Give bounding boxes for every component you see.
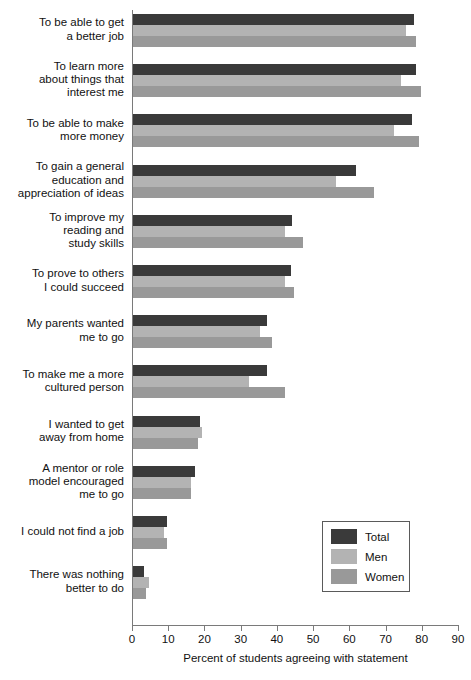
- bar-total: [133, 265, 291, 276]
- category-label: To be able to geta better job: [0, 16, 124, 42]
- bar-total: [133, 64, 416, 75]
- legend-label-total: Total: [365, 531, 389, 543]
- category-label-line: better to do: [0, 582, 124, 595]
- category-label-line: away from home: [0, 431, 124, 444]
- bar-chart: 0102030405060708090 Percent of students …: [0, 0, 471, 680]
- bar-men: [133, 25, 406, 36]
- bars-container: [133, 114, 419, 147]
- x-axis-title: Percent of students agreeing with statem…: [132, 652, 459, 664]
- bar-total: [133, 114, 412, 125]
- bars-container: [133, 416, 202, 449]
- bar-women: [133, 438, 198, 449]
- category-label-line: To improve my: [0, 211, 124, 224]
- bar-men: [133, 176, 336, 187]
- x-axis-tick: [422, 625, 423, 631]
- category-label: To be able to makemore money: [0, 117, 124, 143]
- category-label-line: To gain a general: [0, 160, 124, 173]
- bars-container: [133, 566, 149, 599]
- category-label-line: me to go: [0, 331, 124, 344]
- category-label: To gain a generaleducation andappreciati…: [0, 160, 124, 200]
- category-label: To make me a morecultured person: [0, 368, 124, 394]
- category-label-line: cultured person: [0, 381, 124, 394]
- x-axis-tick-label: 50: [307, 633, 320, 645]
- bar-men: [133, 276, 285, 287]
- x-axis-tick: [386, 625, 387, 631]
- category-label-line: appreciation of ideas: [0, 187, 124, 200]
- bar-men: [133, 527, 164, 538]
- category-label-line: education and: [0, 174, 124, 187]
- x-axis-tick-label: 10: [162, 633, 175, 645]
- bar-total: [133, 14, 414, 25]
- legend-swatch-women-icon: [331, 569, 357, 584]
- bar-men: [133, 577, 149, 588]
- bar-total: [133, 466, 195, 477]
- x-axis-tick: [204, 625, 205, 631]
- x-axis-tick-label: 20: [198, 633, 211, 645]
- bar-women: [133, 538, 167, 549]
- x-axis-tick: [349, 625, 350, 631]
- legend-label-women: Women: [365, 571, 404, 583]
- bar-total: [133, 215, 292, 226]
- legend-item-total: Total: [331, 529, 401, 544]
- bar-women: [133, 387, 285, 398]
- bars-container: [133, 265, 294, 298]
- category-label-line: To be able to get: [0, 16, 124, 29]
- chart-legend: Total Men Women: [322, 521, 410, 592]
- x-axis-tick: [241, 625, 242, 631]
- x-axis-tick-label: 90: [452, 633, 465, 645]
- category-label-line: To prove to others: [0, 267, 124, 280]
- bar-men: [133, 75, 401, 86]
- bar-men: [133, 226, 285, 237]
- category-label: A mentor or rolemodel encouragedme to go: [0, 462, 124, 502]
- bars-container: [133, 14, 416, 47]
- bar-total: [133, 416, 200, 427]
- x-axis-tick-label: 0: [129, 633, 135, 645]
- category-label-line: interest me: [0, 86, 124, 99]
- category-label-line: To make me a more: [0, 368, 124, 381]
- bar-women: [133, 136, 419, 147]
- x-axis-tick: [313, 625, 314, 631]
- x-axis-tick-label: 80: [415, 633, 428, 645]
- category-label-line: me to go: [0, 488, 124, 501]
- bar-total: [133, 315, 267, 326]
- bar-men: [133, 326, 260, 337]
- category-label-line: To learn more: [0, 60, 124, 73]
- category-label: To prove to othersI could succeed: [0, 267, 124, 293]
- legend-swatch-total-icon: [331, 529, 357, 544]
- bars-container: [133, 64, 421, 97]
- bars-container: [133, 165, 374, 198]
- category-label: My parents wantedme to go: [0, 317, 124, 343]
- bars-container: [133, 315, 272, 348]
- category-label-line: I could succeed: [0, 281, 124, 294]
- x-axis-tick-label: 40: [270, 633, 283, 645]
- bar-men: [133, 376, 249, 387]
- bars-container: [133, 516, 167, 549]
- bar-women: [133, 488, 191, 499]
- bars-container: [133, 365, 285, 398]
- bar-women: [133, 237, 303, 248]
- bar-women: [133, 337, 272, 348]
- category-label-line: about things that: [0, 73, 124, 86]
- category-label: To learn moreabout things thatinterest m…: [0, 60, 124, 100]
- bar-total: [133, 566, 144, 577]
- category-label-line: more money: [0, 130, 124, 143]
- bar-men: [133, 477, 191, 488]
- category-label-line: To be able to make: [0, 117, 124, 130]
- category-label-line: There was nothing: [0, 568, 124, 581]
- category-label-line: A mentor or role: [0, 462, 124, 475]
- category-label-line: I wanted to get: [0, 418, 124, 431]
- bar-women: [133, 36, 416, 47]
- bar-women: [133, 287, 294, 298]
- category-label: I wanted to getaway from home: [0, 418, 124, 444]
- x-axis-tick: [458, 625, 459, 631]
- bars-container: [133, 215, 303, 248]
- x-axis-tick-label: 30: [234, 633, 247, 645]
- category-label-line: model encouraged: [0, 475, 124, 488]
- bar-men: [133, 125, 394, 136]
- bar-women: [133, 187, 374, 198]
- bar-total: [133, 165, 356, 176]
- category-label-line: reading and: [0, 224, 124, 237]
- bar-women: [133, 86, 421, 97]
- category-label-line: study skills: [0, 237, 124, 250]
- x-axis-tick-label: 60: [343, 633, 356, 645]
